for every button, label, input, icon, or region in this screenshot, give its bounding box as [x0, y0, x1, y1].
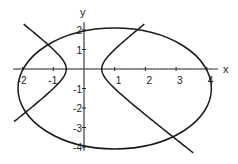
plot-canvas: -2-11234 21-1-2-3-4 x y	[0, 0, 238, 164]
x-tick-label: -1	[48, 75, 57, 86]
x-tick-label: 3	[177, 75, 183, 86]
y-tick-label: -1	[73, 84, 82, 95]
y-tick-label: 2	[76, 25, 82, 36]
y-axis-label: y	[80, 6, 86, 18]
y-tick-label: -2	[73, 103, 82, 114]
y-tick-label: 1	[76, 45, 82, 56]
y-tick-label: -3	[73, 123, 82, 134]
x-tick-label: 1	[116, 75, 122, 86]
x-tick-label: 2	[146, 75, 152, 86]
x-axis-label: x	[223, 63, 229, 75]
x-ticks: -2-11234	[18, 67, 214, 86]
curves	[14, 24, 211, 153]
